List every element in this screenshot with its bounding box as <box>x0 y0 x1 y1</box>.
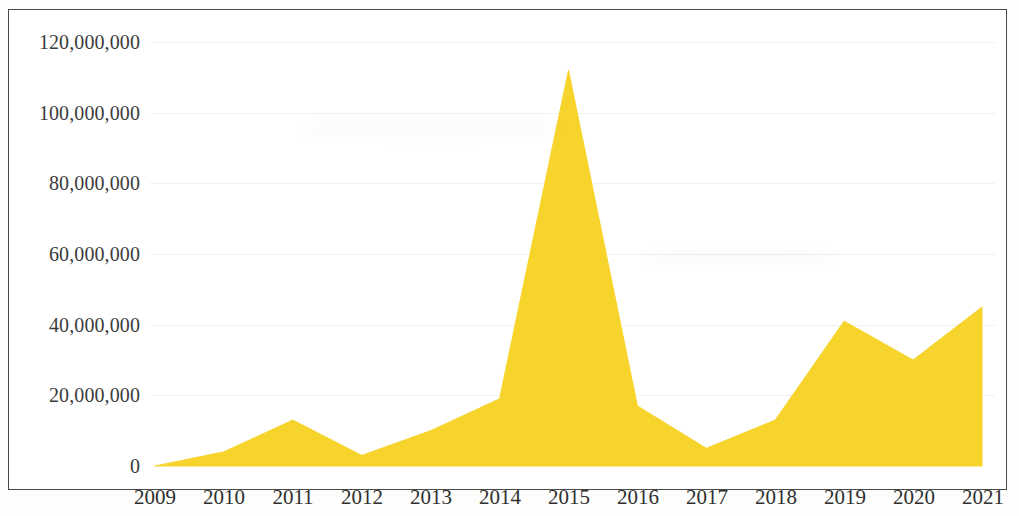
scan-artifact <box>300 120 560 138</box>
x-tick-2011: 2011 <box>253 484 333 510</box>
y-tick-40000000: 40,000,000 <box>8 315 140 335</box>
gridline-40m <box>150 325 995 326</box>
x-tick-2017: 2017 <box>667 484 747 510</box>
gridline-60m <box>150 254 995 255</box>
y-tick-0: 0 <box>8 456 140 476</box>
x-tick-2012: 2012 <box>322 484 402 510</box>
x-tick-2016: 2016 <box>598 484 678 510</box>
gridline-80m <box>150 183 995 184</box>
x-tick-2010: 2010 <box>184 484 264 510</box>
x-tick-2014: 2014 <box>460 484 540 510</box>
y-tick-80000000: 80,000,000 <box>8 173 140 193</box>
y-tick-20000000: 20,000,000 <box>8 385 140 405</box>
x-tick-2009: 2009 <box>115 484 195 510</box>
y-tick-100000000: 100,000,000 <box>8 103 140 123</box>
x-tick-2013: 2013 <box>391 484 471 510</box>
x-tick-2021: 2021 <box>943 484 1019 510</box>
scan-artifact <box>640 250 840 264</box>
scanned-page: 120,000,000 100,000,000 80,000,000 60,00… <box>0 0 1019 516</box>
x-tick-2018: 2018 <box>736 484 816 510</box>
figure-border <box>8 9 1007 490</box>
x-tick-2015: 2015 <box>529 484 609 510</box>
x-tick-2020: 2020 <box>874 484 954 510</box>
gridline-120m <box>150 42 995 43</box>
y-tick-120000000: 120,000,000 <box>8 32 140 52</box>
gridline-100m <box>150 113 995 114</box>
y-tick-60000000: 60,000,000 <box>8 244 140 264</box>
gridline-20m <box>150 395 995 396</box>
x-tick-2019: 2019 <box>805 484 885 510</box>
y-axis: 120,000,000 100,000,000 80,000,000 60,00… <box>0 0 140 500</box>
x-axis: 2009 2010 2011 2012 2013 2014 2015 2016 … <box>0 484 1019 516</box>
